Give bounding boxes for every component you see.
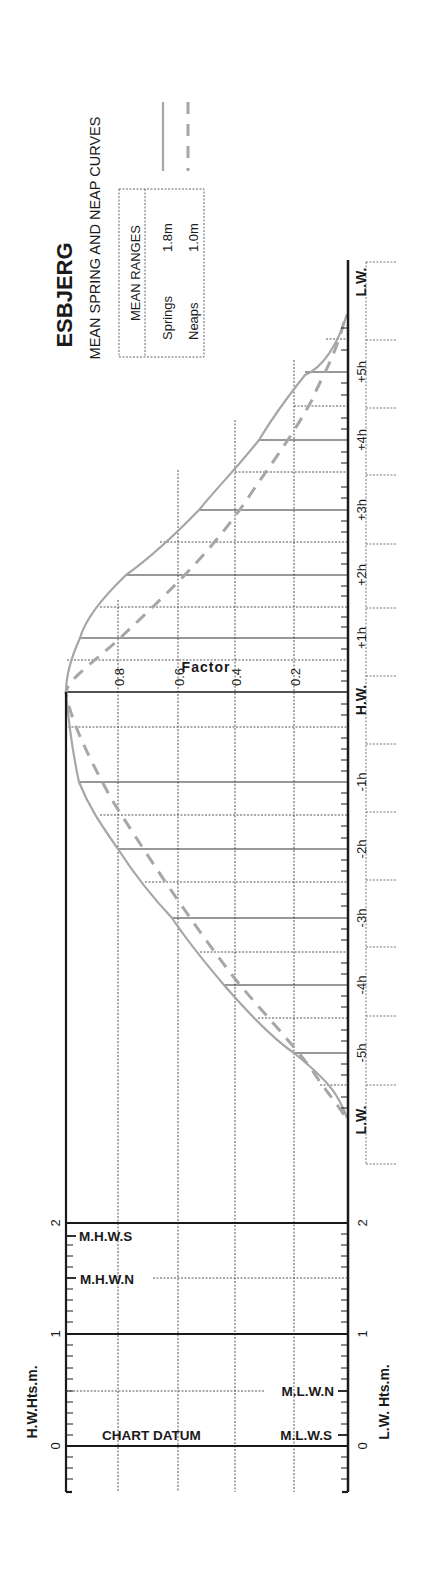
factor-tick-0-8: 0.8 <box>112 668 127 686</box>
springs-value: 1.8m <box>160 223 175 252</box>
mlwn-label: M.L.W.N <box>282 1384 335 1399</box>
time-label-minus3: -3h <box>354 909 369 928</box>
title-block: ESBJERG MEAN SPRING AND NEAP CURVES <box>52 117 103 360</box>
lw-height-tick-0: 0 <box>355 1442 370 1449</box>
hw-height-tick-1: 1 <box>48 1330 63 1337</box>
chart-title: ESBJERG <box>52 242 77 347</box>
mlws-label: M.L.W.S <box>280 1428 332 1443</box>
time-label-minus5: -5h <box>354 1044 369 1063</box>
tidal-curve-chart: ESBJERG MEAN SPRING AND NEAP CURVES MEAN… <box>0 0 426 1593</box>
hw-heights-axis-title: H.W.Hts.m. <box>24 1365 40 1438</box>
factor-tick-0-4: 0.4 <box>229 668 244 686</box>
time-label-minus2: -2h <box>354 840 369 859</box>
time-label-plus2: +2h <box>354 564 369 586</box>
time-label-minus4: -4h <box>354 976 369 995</box>
chart-subtitle: MEAN SPRING AND NEAP CURVES <box>87 117 103 360</box>
factor-gridlines <box>118 360 294 1492</box>
neaps-curve <box>66 322 344 1115</box>
neaps-value: 1.0m <box>186 223 201 252</box>
time-label-plus4: +4h <box>354 429 369 451</box>
mean-ranges-box: MEAN RANGES Springs 1.8m Neaps 1.0m <box>119 189 204 357</box>
lw-height-tick-1: 1 <box>355 1330 370 1337</box>
time-axis-labels: L.W. -5h -4h -3h -2h -1h H.W. +1h +2h +3… <box>353 268 369 1135</box>
time-label-lw-end: L.W. <box>353 268 369 297</box>
mhwn-label: M.H.W.N <box>80 1272 134 1287</box>
neaps-label: Neaps <box>186 302 201 340</box>
time-label-plus3: +3h <box>354 499 369 521</box>
time-label-lw-start: L.W. <box>353 1106 369 1135</box>
right-strip <box>366 262 396 1164</box>
hw-height-tick-0: 0 <box>48 1442 63 1449</box>
time-label-plus5: +5h <box>354 361 369 383</box>
lw-height-tick-2: 2 <box>355 1219 370 1226</box>
factor-tick-0-2: 0.2 <box>288 668 303 686</box>
half-hour-lines <box>67 339 348 1085</box>
mhws-label: M.H.W.S <box>79 1229 132 1244</box>
hw-height-tick-2: 2 <box>48 1219 63 1226</box>
factor-labels: Factor 0.8 0.6 0.4 0.2 <box>112 659 303 686</box>
ranges-heading: MEAN RANGES <box>128 225 143 321</box>
lw-heights-axis-title: L.W. Hts.m. <box>376 1364 392 1439</box>
time-label-hw: H.W. <box>353 685 369 715</box>
chart-datum-label: CHART DATUM <box>102 1428 201 1443</box>
hour-lines <box>79 372 348 1053</box>
springs-label: Springs <box>160 295 175 340</box>
springs-curve <box>66 314 347 1118</box>
time-label-minus1: -1h <box>354 773 369 792</box>
height-scale: 2 1 0 2 1 0 H.W.Hts.m. L.W. Hts.m. M.H.W… <box>24 1219 392 1479</box>
factor-title: Factor <box>182 659 231 675</box>
factor-tick-0-6: 0.6 <box>172 668 187 686</box>
time-label-plus1: +1h <box>354 627 369 649</box>
legend <box>163 102 188 171</box>
